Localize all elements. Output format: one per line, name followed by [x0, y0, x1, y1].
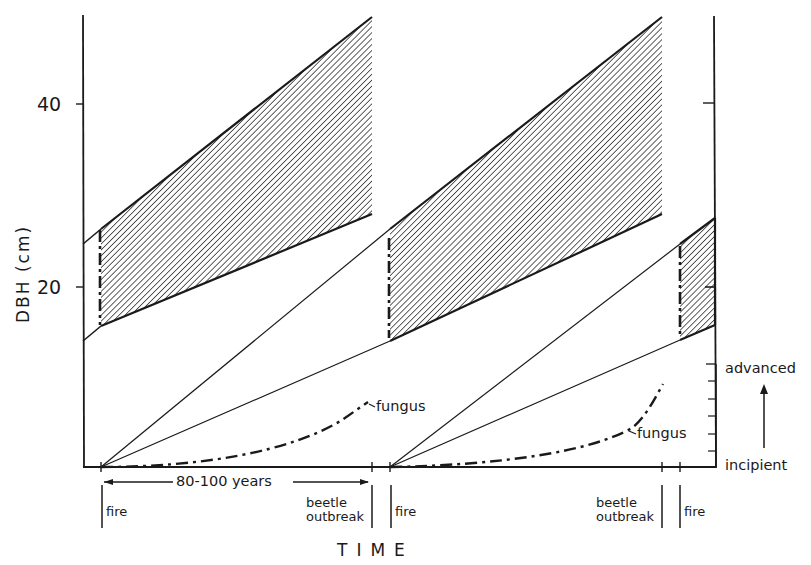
y-tick-label-20: 20: [37, 276, 61, 298]
hatched-band-1: [101, 17, 372, 326]
event-beetle-outbreak-1: beetle outbreak: [306, 496, 364, 524]
event-beetle-line2: outbreak: [306, 510, 364, 524]
hatched-band-3: [680, 218, 715, 340]
cycle-1: [100, 17, 390, 467]
fungus-label-2: fungus: [637, 425, 686, 441]
interval-label: 80-100 years: [176, 473, 272, 489]
event-fire-1: fire: [106, 505, 127, 519]
fire-beetle-fungus-diagram: 40 20 DBH (cm) fungus fungus advanced in…: [0, 0, 811, 565]
cycle-2: [389, 17, 680, 467]
event-fire-3: fire: [684, 505, 705, 519]
event-fire-2: fire: [395, 505, 416, 519]
y-tick-label-40: 40: [37, 93, 61, 115]
left-axis: [83, 15, 84, 468]
advanced-arrow-icon: [760, 384, 768, 448]
advanced-label: advanced: [725, 360, 796, 376]
event-beetle-line1: beetle: [596, 496, 654, 510]
event-beetle-outbreak-2: beetle outbreak: [596, 496, 654, 524]
incipient-label: incipient: [725, 457, 787, 473]
fungus-curve-2: [390, 384, 663, 467]
y-axis-label: DBH (cm): [13, 225, 33, 323]
pre-cycle-band: [83, 229, 101, 341]
diagram-canvas: [0, 0, 811, 565]
fungus-scale-ticks: [706, 364, 716, 467]
cycle-3: [680, 218, 715, 340]
event-beetle-line2: outbreak: [596, 510, 654, 524]
event-beetle-line1: beetle: [306, 496, 364, 510]
hatched-band-2: [390, 17, 662, 341]
fungus-label-1: fungus: [376, 398, 425, 414]
event-markers: [102, 485, 680, 528]
x-axis-label: TIME: [337, 540, 414, 560]
